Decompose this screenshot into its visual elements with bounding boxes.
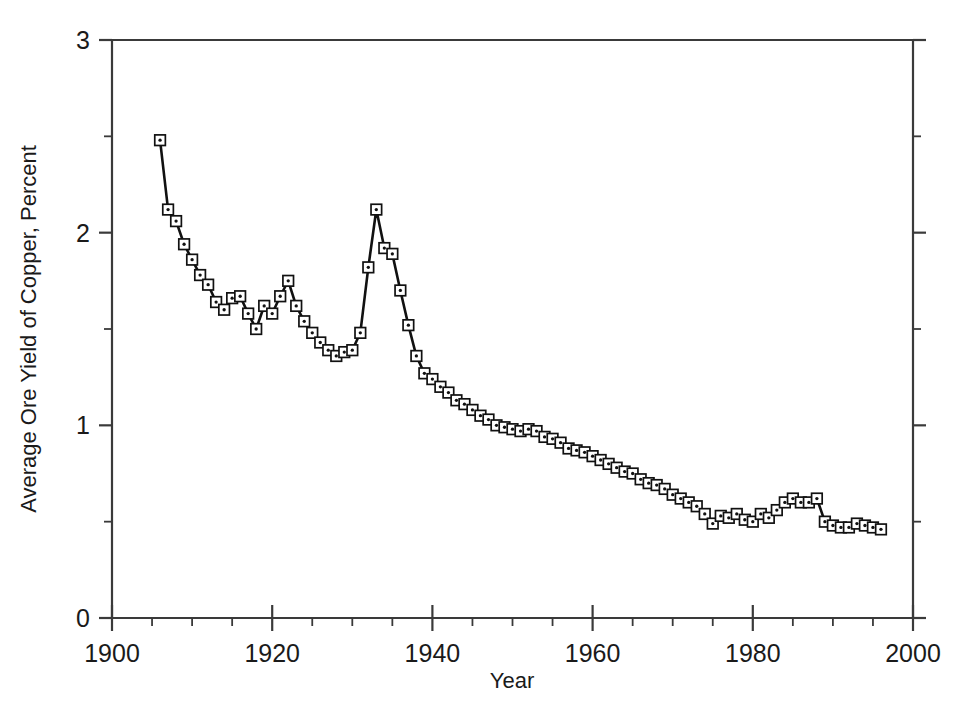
data-point-center-dot bbox=[631, 472, 634, 475]
series-markers bbox=[155, 135, 886, 535]
data-point-center-dot bbox=[791, 497, 794, 500]
data-point-center-dot bbox=[783, 501, 786, 504]
chart-figure: 190019201940196019802000 0123 Year Avera… bbox=[0, 0, 979, 716]
data-point-center-dot bbox=[799, 501, 802, 504]
data-point-center-dot bbox=[182, 243, 185, 246]
data-point-center-dot bbox=[775, 508, 778, 511]
data-point-center-dot bbox=[407, 324, 410, 327]
data-point-center-dot bbox=[655, 483, 658, 486]
data-point-center-dot bbox=[463, 402, 466, 405]
data-point-center-dot bbox=[711, 522, 714, 525]
data-point-center-dot bbox=[399, 289, 402, 292]
data-point-center-dot bbox=[727, 516, 730, 519]
data-point-center-dot bbox=[847, 526, 850, 529]
data-point-center-dot bbox=[719, 514, 722, 517]
data-point-center-dot bbox=[511, 428, 514, 431]
data-point-center-dot bbox=[671, 493, 674, 496]
data-point-center-dot bbox=[255, 327, 258, 330]
data-point-center-dot bbox=[343, 350, 346, 353]
data-point-center-dot bbox=[759, 512, 762, 515]
y-tick-label-3: 3 bbox=[76, 26, 90, 54]
data-point-center-dot bbox=[591, 455, 594, 458]
data-point-center-dot bbox=[214, 300, 217, 303]
data-point-center-dot bbox=[575, 449, 578, 452]
data-point-center-dot bbox=[863, 524, 866, 527]
data-point-center-dot bbox=[311, 331, 314, 334]
data-point-center-dot bbox=[687, 501, 690, 504]
data-point-center-dot bbox=[222, 308, 225, 311]
data-point-center-dot bbox=[174, 219, 177, 222]
x-axis-tick-labels: 190019201940196019802000 bbox=[84, 639, 941, 667]
data-point-center-dot bbox=[327, 349, 330, 352]
data-point-center-dot bbox=[823, 520, 826, 523]
data-point-center-dot bbox=[375, 208, 378, 211]
data-point-center-dot bbox=[231, 297, 234, 300]
data-point-center-dot bbox=[190, 258, 193, 261]
plot-frame bbox=[112, 40, 913, 618]
data-point-center-dot bbox=[287, 279, 290, 282]
x-axis-ticks bbox=[112, 605, 913, 631]
x-tick-label-1960: 1960 bbox=[565, 639, 621, 667]
data-point-center-dot bbox=[623, 470, 626, 473]
data-point-center-dot bbox=[319, 341, 322, 344]
data-point-center-dot bbox=[415, 354, 418, 357]
data-point-center-dot bbox=[599, 458, 602, 461]
data-point-center-dot bbox=[367, 266, 370, 269]
data-point-center-dot bbox=[295, 304, 298, 307]
y-tick-label-0: 0 bbox=[76, 604, 90, 632]
data-point-center-dot bbox=[158, 139, 161, 142]
data-point-center-dot bbox=[607, 462, 610, 465]
data-point-center-dot bbox=[543, 435, 546, 438]
data-point-center-dot bbox=[807, 501, 810, 504]
y-tick-label-1: 1 bbox=[76, 411, 90, 439]
data-point-center-dot bbox=[351, 349, 354, 352]
data-point-center-dot bbox=[695, 505, 698, 508]
line-chart: 190019201940196019802000 0123 Year Avera… bbox=[0, 0, 979, 716]
data-point-center-dot bbox=[647, 481, 650, 484]
data-point-center-dot bbox=[166, 208, 169, 211]
data-point-center-dot bbox=[767, 516, 770, 519]
data-point-center-dot bbox=[871, 526, 874, 529]
data-point-center-dot bbox=[831, 524, 834, 527]
data-point-center-dot bbox=[239, 295, 242, 298]
data-point-center-dot bbox=[551, 437, 554, 440]
data-point-center-dot bbox=[583, 451, 586, 454]
x-tick-label-1900: 1900 bbox=[84, 639, 140, 667]
data-point-center-dot bbox=[423, 372, 426, 375]
data-point-center-dot bbox=[855, 522, 858, 525]
data-point-center-dot bbox=[519, 429, 522, 432]
data-point-center-dot bbox=[391, 252, 394, 255]
data-point-center-dot bbox=[471, 408, 474, 411]
data-point-center-dot bbox=[815, 497, 818, 500]
data-point-center-dot bbox=[439, 385, 442, 388]
data-point-center-dot bbox=[743, 518, 746, 521]
data-point-center-dot bbox=[703, 512, 706, 515]
data-point-center-dot bbox=[479, 414, 482, 417]
x-tick-label-2000: 2000 bbox=[885, 639, 941, 667]
data-point-center-dot bbox=[879, 528, 882, 531]
data-point-center-dot bbox=[431, 377, 434, 380]
data-point-center-dot bbox=[263, 304, 266, 307]
data-point-center-dot bbox=[639, 478, 642, 481]
x-axis-title: Year bbox=[490, 668, 534, 693]
data-point-center-dot bbox=[383, 246, 386, 249]
data-point-center-dot bbox=[303, 320, 306, 323]
x-tick-label-1920: 1920 bbox=[244, 639, 300, 667]
data-point-center-dot bbox=[503, 426, 506, 429]
data-point-center-dot bbox=[679, 497, 682, 500]
data-point-center-dot bbox=[535, 429, 538, 432]
data-point-center-dot bbox=[839, 526, 842, 529]
y-axis-tick-labels: 0123 bbox=[76, 26, 90, 632]
data-point-center-dot bbox=[198, 273, 201, 276]
x-tick-label-1980: 1980 bbox=[725, 639, 781, 667]
x-tick-label-1940: 1940 bbox=[405, 639, 461, 667]
data-point-center-dot bbox=[527, 428, 530, 431]
y-axis-title: Average Ore Yield of Copper, Percent bbox=[16, 145, 41, 513]
y-tick-label-2: 2 bbox=[76, 219, 90, 247]
data-point-center-dot bbox=[271, 312, 274, 315]
data-point-center-dot bbox=[567, 447, 570, 450]
data-point-center-dot bbox=[751, 520, 754, 523]
data-point-center-dot bbox=[279, 295, 282, 298]
data-point-center-dot bbox=[663, 487, 666, 490]
y-axis-ticks bbox=[99, 40, 926, 618]
